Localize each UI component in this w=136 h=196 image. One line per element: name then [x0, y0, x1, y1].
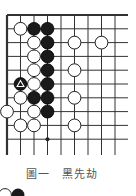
white-stone [95, 36, 108, 49]
star-point [46, 137, 50, 141]
black-stone [41, 50, 54, 63]
black-stone [28, 91, 41, 104]
black-stone [41, 36, 54, 49]
black-stone [41, 91, 54, 104]
stones-layer [1, 22, 108, 131]
white-stone [14, 22, 27, 35]
white-stone [28, 36, 41, 49]
diagram-caption: 圖一 黑先劫 [0, 165, 124, 181]
black-stone [41, 22, 54, 35]
white-stone [0, 189, 11, 196]
black-stone [41, 105, 54, 118]
cropped-stones [0, 189, 24, 196]
white-stone [14, 91, 27, 104]
white-stone [68, 64, 81, 77]
white-stone [28, 78, 41, 91]
white-stone [28, 64, 41, 77]
white-stone [68, 119, 81, 132]
star-points [46, 137, 50, 141]
black-stone [28, 22, 41, 35]
black-stone [41, 78, 54, 91]
white-stone [28, 105, 41, 118]
white-stone [28, 50, 41, 63]
black-stone [41, 64, 54, 77]
black-stone [12, 189, 25, 196]
white-stone [68, 36, 81, 49]
white-stone [1, 105, 14, 118]
white-stone [28, 119, 41, 132]
white-stone [14, 119, 27, 132]
white-stone [68, 91, 81, 104]
